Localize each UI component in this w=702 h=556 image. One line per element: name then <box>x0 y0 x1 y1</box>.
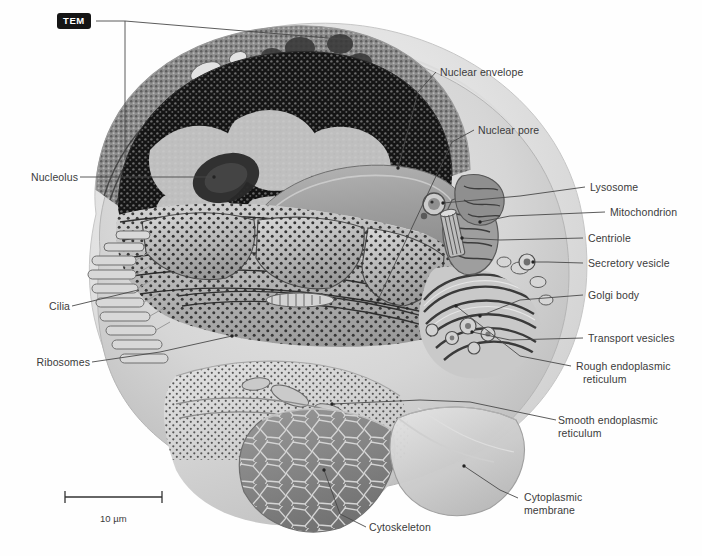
label-nucleolus: Nucleolus <box>0 171 78 184</box>
label-ribosomes: Ribosomes <box>0 356 90 369</box>
label-centriole: Centriole <box>588 232 631 245</box>
label-cytoplasmic-membrane-line2: membrane <box>524 504 575 516</box>
smooth-er-tubules <box>266 293 334 307</box>
label-cytoplasmic-membrane-line1: Cytoplasmic <box>524 491 582 503</box>
scale-bar-label: 10 µm <box>100 513 127 524</box>
label-smooth-er-line2: reticulum <box>558 427 602 439</box>
label-rough-er-line1: Rough endoplasmic <box>576 360 671 372</box>
figure-canvas: TEM 10 µm Nucleolus Cilia Ribosomes Nucl… <box>0 0 702 556</box>
label-mitochondrion: Mitochondrion <box>610 206 677 219</box>
scale-bar <box>65 491 162 503</box>
label-smooth-er: Smooth endoplasmic reticulum <box>558 414 658 439</box>
label-cilia: Cilia <box>0 300 70 313</box>
label-nuclear-pore: Nuclear pore <box>478 124 539 137</box>
label-secretory-vesicle: Secretory vesicle <box>588 257 670 270</box>
label-lysosome: Lysosome <box>590 181 638 194</box>
tem-badge: TEM <box>57 13 91 29</box>
cell-illustration <box>0 0 702 556</box>
label-nuclear-envelope: Nuclear envelope <box>440 66 523 79</box>
label-rough-er-line2: reticulum <box>583 373 627 386</box>
label-cytoplasmic-membrane: Cytoplasmic membrane <box>524 491 582 516</box>
label-cytoskeleton: Cytoskeleton <box>369 521 431 534</box>
label-golgi-body: Golgi body <box>588 289 639 302</box>
label-smooth-er-line1: Smooth endoplasmic <box>558 414 658 426</box>
label-rough-er: Rough endoplasmic reticulum <box>576 360 671 385</box>
label-transport-vesicles: Transport vesicles <box>588 332 675 345</box>
cytoplasmic-membrane <box>390 407 524 516</box>
